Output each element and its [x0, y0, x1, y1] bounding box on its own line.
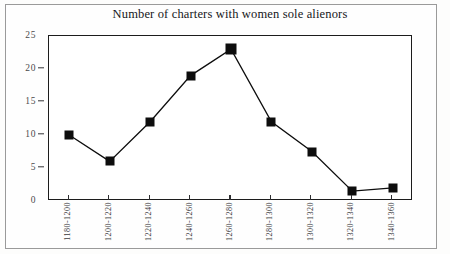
x-tick-mark: [270, 195, 271, 200]
y-tick-mark: [38, 67, 44, 68]
x-tick-mark: [391, 195, 392, 200]
data-point-marker: [267, 117, 276, 126]
y-tick-label: 20: [25, 63, 36, 73]
data-point-marker: [146, 117, 155, 126]
data-point-marker: [307, 147, 316, 156]
data-point-marker: [388, 183, 397, 192]
y-tick-label: 0: [31, 195, 36, 205]
y-tick-label: 15: [25, 96, 36, 106]
x-tick-mark: [189, 195, 190, 200]
x-tick-mark: [229, 195, 230, 200]
x-tick-label: 1240-1260: [185, 202, 194, 241]
y-tick-label: 5: [31, 162, 36, 172]
x-axis: 1180-12001200-12201220-12401240-12601260…: [48, 200, 412, 252]
x-tick-label: 1260-1280: [225, 202, 234, 241]
chart-figure: Number of charters with women sole alien…: [0, 0, 450, 254]
x-tick-mark: [149, 195, 150, 200]
series-line: [49, 36, 413, 201]
y-tick-label: 25: [25, 30, 36, 40]
x-tick-mark: [351, 195, 352, 200]
data-point-marker: [186, 71, 195, 80]
data-point-marker: [105, 157, 114, 166]
x-tick-mark: [310, 195, 311, 200]
data-point-marker: [348, 187, 357, 196]
y-tick-mark: [38, 133, 44, 134]
x-tick-label: 1280-1300: [265, 202, 274, 241]
data-point-marker: [65, 131, 74, 140]
data-point-marker: [226, 44, 237, 55]
y-tick-mark: [38, 100, 44, 101]
x-tick-label: 1220-1240: [144, 202, 153, 241]
y-tick-label: 10: [25, 129, 36, 139]
x-tick-mark: [68, 195, 69, 200]
y-axis: 0510152025: [0, 35, 44, 200]
plot-area: [48, 35, 412, 200]
x-tick-mark: [108, 195, 109, 200]
x-tick-label: 1200-1220: [104, 202, 113, 241]
x-tick-label: 1180-1200: [63, 202, 72, 241]
y-tick-mark: [38, 166, 44, 167]
plot-inner: [49, 36, 411, 199]
chart-title: Number of charters with women sole alien…: [48, 7, 412, 22]
x-tick-label: 1300-1320: [306, 202, 315, 241]
x-tick-label: 1340-1360: [387, 202, 396, 241]
x-tick-label: 1320-1340: [346, 202, 355, 241]
